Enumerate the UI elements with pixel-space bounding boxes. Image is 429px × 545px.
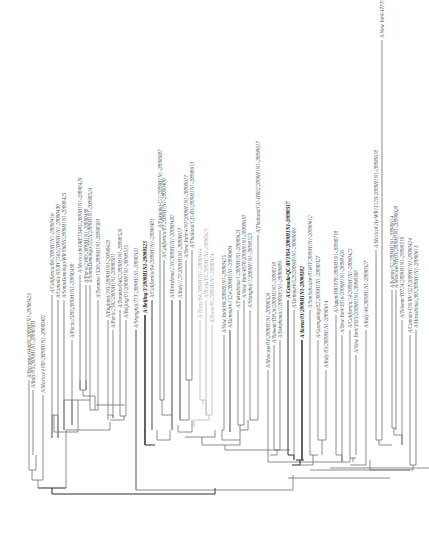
taxon-label: A/SanSalvador/0169T/2009H1N1-20090612 (307, 215, 313, 309)
taxon-label: A/California/07/2009H1N1-20090409 (161, 178, 167, 259)
taxon-label: A/Toronto/1530/2009H1N1-20090503 (95, 218, 101, 299)
taxon-label: A/Taiwan/T0724/2009H1N1-20090519 (399, 237, 405, 319)
root-branch (52, 488, 215, 494)
taxon-label: A/Denmark/528/2009H1N1-20090609 (291, 228, 297, 309)
taxon-label: A/Guangdong/02/2009H1N1-20090527 (315, 255, 321, 339)
taxon-label: A/SantoDomingo/572N/2009H1N1-20090524 (87, 187, 93, 284)
taxon-label: A/SantoDomingo/WR1068N/2009H1N1-20090425 (61, 192, 67, 299)
taxon-label: A/California/04/2009H1N1-20090401 (149, 218, 155, 299)
taxon-label: A/Italy/05/2009H1N1-20090614 (323, 300, 329, 369)
taxon-label: A/New York/3335/2009H1N1-20090508 (353, 270, 359, 354)
taxon-label: A/Mexico/4108/2009H1N1-20090402 (40, 314, 46, 394)
tree-branches (29, 300, 429, 494)
taxon-label: A/Korea/01/2009H1N1-20090502 (299, 266, 305, 339)
taxon-label: A/Yokohama/1/2009H1N1-20090609 (277, 261, 283, 339)
taxon-label: A/New York/4777/2009H1N1-20090614 (379, 0, 385, 39)
taxon-label: A/Shanghai/71T/2009H1N1-20090531 (133, 247, 139, 329)
tree-leaves: A/Bayonne/6466N/2009H1N1-20090425A/Italy… (26, 0, 419, 490)
taxon-label: A/Texas/01/2009H1N1-20090424 (209, 253, 215, 324)
taxon-label: A/Denmark/1524/2009H1N1-20090604 (227, 245, 233, 329)
taxon-label: A/Italy/49/2009H1N1-20090527 (363, 260, 369, 329)
taxon-label: A/Thailand/CU-B5/2009H1N1-20090613 (189, 161, 195, 249)
taxon-label: A/Thailand/CU-H982/2009H1N1-20090617 (255, 141, 261, 234)
taxon-label: A/Paris/2580/2009H1N1-20090430 (69, 263, 75, 339)
taxon-label: A/MexicoCity/WR1312N/2009H1N1-20090610 (373, 150, 379, 249)
taxon-label: A/Shanghai/1/2009H1N1-20090523 (247, 233, 253, 309)
taxon-label: A/Hiroshima/200/2009H1N1-20090613 (413, 245, 419, 329)
taxon-label: A/New York/3316/2009H1N1-20090426 (339, 250, 345, 334)
taxon-label: A/Italy/05/2009H1N1-20090503 (30, 320, 36, 389)
phylogenetic-tree: A/Bayonne/6466N/2009H1N1-20090425A/Italy… (0, 0, 429, 545)
taxon-label: A/Paris/2592/2009H1N1-20090501 (110, 253, 116, 329)
taxon-label: A/Hiroshima/216/2009H1N1-20090430 (169, 215, 175, 299)
taxon-label: A/Beijing/01/2009H1N1-20090515 (123, 245, 129, 319)
taxon-label: A/Beijing/3/2009H1N1-20090523 (142, 241, 148, 314)
